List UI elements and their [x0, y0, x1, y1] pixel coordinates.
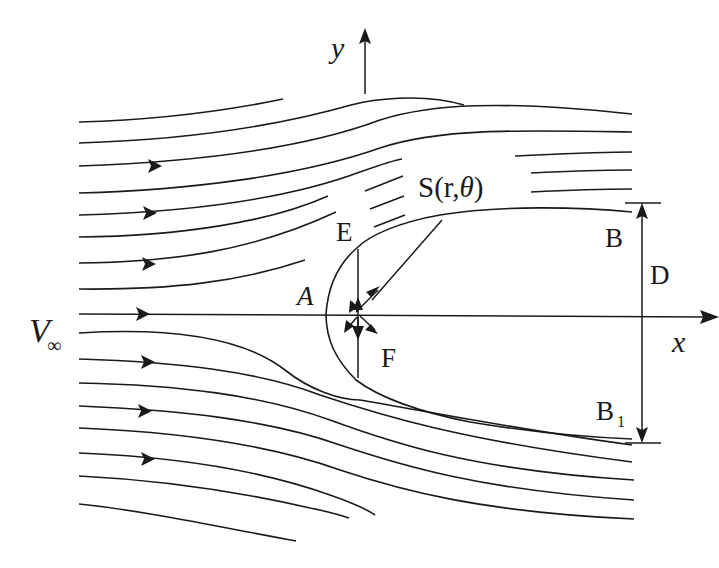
lower-streamlines — [79, 332, 634, 541]
point-B1-label: B — [596, 396, 614, 426]
streamline — [79, 212, 336, 263]
streamline-segment — [531, 189, 632, 192]
streamline-segment — [370, 196, 404, 209]
flow-diagram: y x V ∞ A E F S(r,θ) B D B 1 — [0, 0, 719, 568]
streamline — [79, 99, 283, 122]
point-S-label: S(r,θ) — [418, 171, 483, 204]
point-E-label: E — [336, 217, 353, 247]
body-upper-contour — [326, 208, 632, 439]
y-axis-label: y — [328, 31, 345, 64]
streamline — [79, 98, 464, 143]
streamline — [79, 105, 632, 166]
dimension-D — [625, 203, 661, 443]
point-S-theta: θ — [460, 171, 474, 203]
streamline-segment — [515, 152, 632, 156]
point-F-label: F — [381, 343, 396, 373]
x-axis — [79, 314, 706, 317]
dimension-D-label: D — [650, 260, 670, 290]
upper-streamlines — [79, 98, 632, 289]
body-boundary — [326, 208, 632, 439]
free-stream-subscript: ∞ — [47, 334, 61, 356]
flow-arrow-icon — [141, 452, 155, 466]
flow-arrow-icon — [138, 404, 152, 418]
flow-arrows — [136, 159, 162, 466]
streamline — [79, 332, 632, 445]
streamline-segment — [365, 176, 403, 191]
streamline — [79, 383, 634, 480]
point-S-text: S(r, — [418, 171, 460, 204]
streamline — [79, 453, 375, 515]
streamline — [79, 504, 296, 541]
streamline — [79, 476, 349, 518]
point-B1-subscript: 1 — [617, 413, 625, 430]
streamline — [79, 406, 634, 500]
point-B-label: B — [605, 223, 623, 253]
vector-se-arrow-icon — [365, 324, 378, 334]
streamline — [79, 159, 402, 215]
x-axis-label: x — [671, 325, 686, 358]
streamline-segment — [531, 170, 632, 173]
coordinate-axes — [79, 28, 719, 324]
streamline — [79, 260, 305, 289]
point-S-close: ) — [474, 171, 484, 204]
vector-s-arrow-icon — [352, 326, 364, 340]
vector-n-arrow-icon — [353, 297, 363, 310]
point-A-label: A — [295, 281, 314, 311]
flow-arrow-icon — [143, 206, 157, 220]
